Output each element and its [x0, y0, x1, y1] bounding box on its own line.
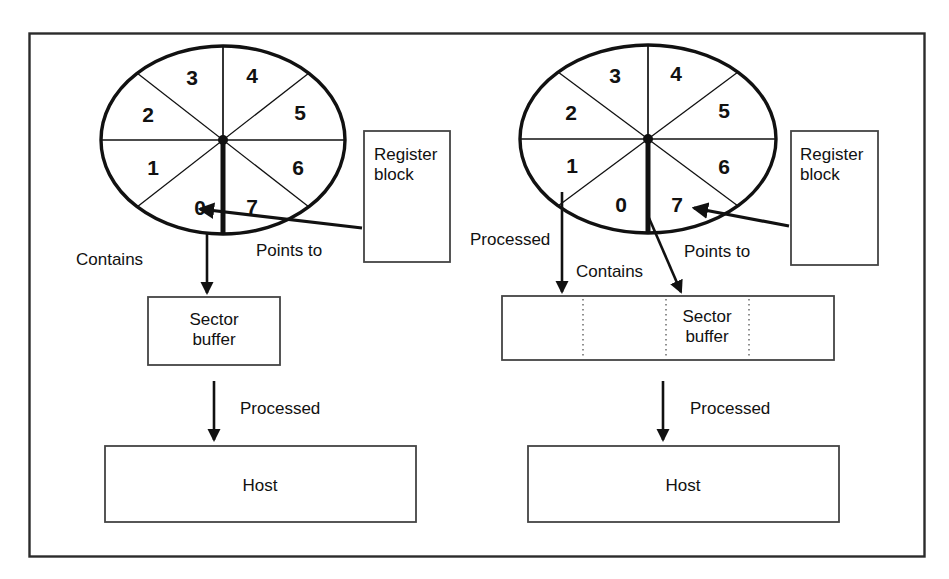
wheel-sector-6: 6 [292, 156, 304, 179]
wheel-hub [643, 134, 653, 144]
sector-buffer-label-line1: Sector [189, 310, 238, 329]
edge-processed-right-label: Processed [470, 230, 550, 249]
host-label: Host [243, 476, 278, 495]
wheel-sector-4: 4 [246, 64, 258, 87]
sector-buffer-label-line2: buffer [192, 330, 236, 349]
edge-contains-left-label: Contains [76, 250, 143, 269]
wheel-sector-2: 2 [142, 103, 154, 126]
wheel-sector-5: 5 [718, 99, 730, 122]
register-block-right: Register block [791, 131, 878, 265]
register-block-left: Register block [364, 131, 450, 262]
wheel-hub [218, 135, 228, 145]
edge-processed-host-right-label: Processed [690, 399, 770, 418]
wheel-sector-3: 3 [609, 64, 621, 87]
wheel-sector-7: 7 [671, 193, 683, 216]
wheel-sector-0: 0 [615, 193, 627, 216]
wheel-sector-1: 1 [147, 156, 159, 179]
sector-buffer-right: Sector buffer [502, 296, 834, 360]
host-label: Host [666, 476, 701, 495]
sector-wheel-left: 0 1 2 3 4 5 6 7 [101, 46, 345, 234]
wheel-sector-3: 3 [186, 66, 198, 89]
sector-buffer-box [502, 296, 834, 360]
register-block-label-line2: block [800, 165, 840, 184]
sector-buffer-left: Sector buffer [148, 297, 280, 365]
wheel-sector-1: 1 [566, 154, 578, 177]
edge-processed-left-label: Processed [240, 399, 320, 418]
edge-points-to-right-label: Points to [684, 242, 750, 261]
diagram-canvas: 0 1 2 3 4 5 6 7 Register block Points to… [0, 0, 949, 579]
sector-buffer-label-line2: buffer [685, 327, 729, 346]
wheel-sector-5: 5 [294, 101, 306, 124]
register-block-label-line1: Register [374, 145, 438, 164]
sector-buffer-label-line1: Sector [682, 307, 731, 326]
wheel-sector-6: 6 [718, 155, 730, 178]
edge-points-to-left-label: Points to [256, 241, 322, 260]
register-block-label-line2: block [374, 165, 414, 184]
wheel-sector-0: 0 [194, 196, 206, 219]
wheel-sector-2: 2 [565, 101, 577, 124]
host-right: Host [528, 446, 839, 522]
wheel-sector-4: 4 [670, 62, 682, 85]
sector-wheel-right: 0 1 2 3 4 5 6 7 [520, 45, 776, 233]
sector-buffering-diagram: 0 1 2 3 4 5 6 7 Register block Points to… [0, 0, 949, 579]
edge-contains-right-label: Contains [576, 262, 643, 281]
host-left: Host [105, 446, 416, 522]
register-block-label-line1: Register [800, 145, 864, 164]
